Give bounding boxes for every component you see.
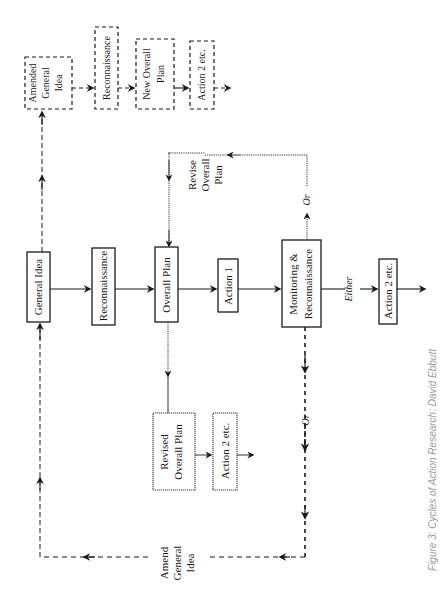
or-label-top: Or	[301, 194, 312, 205]
amended-reconnaissance-box: Reconnaissance	[95, 27, 118, 109]
reconnaissance-box: Reconnaissance	[92, 248, 115, 325]
revised-action-2-label: Action 2 etc.	[219, 422, 231, 479]
amended-label-line1: Amended	[27, 64, 38, 103]
action-research-diagram: General Idea Reconnaissance Overall Plan…	[0, 0, 445, 601]
reconnaissance-label: Reconnaissance	[97, 251, 109, 321]
monitoring-box: Monitoring & Reconnaissance	[282, 240, 321, 327]
general-idea-label: General Idea	[32, 259, 44, 316]
amended-action-2-box: Action 2 etc.	[190, 41, 214, 109]
overall-plan-label: Overall Plan	[160, 257, 172, 313]
general-idea-box: General Idea	[27, 252, 50, 322]
new-plan-label-line1: New Overall	[141, 48, 152, 100]
figure-caption: Figure 3: Cycles of Action Research: Dav…	[427, 348, 438, 571]
amended-label-line3: Idea	[53, 74, 64, 92]
amended-recon-label: Reconnaissance	[101, 36, 112, 100]
amend-label-line1: Amend	[158, 546, 170, 579]
amend-label-line2: General	[171, 546, 183, 581]
revise-label-line1: Revise	[186, 160, 198, 190]
or-label-bottom: Or	[300, 414, 311, 425]
revised-action-2-box: Action 2 etc.	[213, 413, 237, 490]
amended-general-idea-box: Amended General Idea	[25, 57, 72, 109]
main-cycle: General Idea Reconnaissance Overall Plan…	[27, 240, 425, 327]
new-plan-label-line2: Plan	[155, 65, 166, 83]
new-overall-plan-box: New Overall Plan	[136, 39, 174, 109]
revise-label-line3: Plan	[212, 165, 224, 185]
line-revise-corner	[240, 155, 307, 186]
action-2-box: Action 2 etc.	[379, 259, 397, 324]
action-1-label: Action 1	[222, 267, 234, 305]
revise-label-line2: Overall	[199, 159, 211, 192]
revised-plan-box: Revised Overall Plan	[153, 413, 195, 490]
either-label: Either	[343, 276, 354, 302]
revised-plan-label-line1: Revised	[158, 434, 170, 470]
action-2-label: Action 2 etc.	[382, 262, 394, 319]
revised-plan-label-line2: Overall Plan	[172, 424, 184, 480]
overall-plan-box: Overall Plan	[155, 247, 178, 322]
amended-label-line2: General	[40, 67, 51, 99]
monitoring-label-line2: Reconnaissance	[302, 249, 314, 319]
amend-label-line3: Idea	[184, 553, 196, 572]
monitoring-label-line1: Monitoring &	[287, 253, 299, 315]
action-1-box: Action 1	[218, 259, 238, 312]
amended-action-2-label: Action 2 etc.	[196, 49, 207, 100]
